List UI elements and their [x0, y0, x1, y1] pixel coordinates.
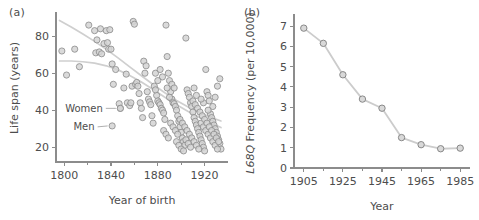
panel-a-x-ticklabel: 1800	[50, 169, 78, 182]
panel-a-data-point	[161, 110, 167, 116]
panel-a-data-point	[138, 105, 144, 111]
panel-a-data-point	[135, 83, 141, 89]
panel-a-data-point	[152, 87, 158, 93]
panel-b-x-ticklabel: 1985	[446, 175, 474, 188]
panel-a-data-point	[143, 63, 149, 69]
panel-a-data-point	[214, 83, 220, 89]
panel-a-data-point	[173, 107, 179, 113]
panel-a-y-ticklabel: 40	[35, 104, 49, 117]
panel-a-data-point	[202, 148, 208, 154]
panel-a-data-point	[217, 76, 223, 82]
panel-b-data-point	[437, 146, 443, 152]
panel-b-x-ticklabel: 1965	[407, 175, 435, 188]
panel-a-data-point	[212, 94, 218, 100]
panel-a-data-point	[180, 148, 186, 154]
panel-a-data-point	[175, 131, 181, 137]
panel-a-svg: 204060801800184018801920WomenMen Life sp…	[0, 0, 232, 220]
panel-b-data-point	[320, 40, 326, 46]
panel-b-data-point	[418, 141, 424, 147]
panel-b-axes	[294, 14, 470, 168]
panel-a-data-point	[205, 92, 211, 98]
panel-a-data-point	[94, 37, 100, 43]
panel-a-data-point	[193, 92, 199, 98]
panel-b-data-point	[457, 145, 463, 151]
panel-a-data-point	[154, 92, 160, 98]
panel-a-data-point	[166, 94, 172, 100]
panel-a-data-point	[144, 89, 150, 95]
panel-a-y-ticklabel: 80	[35, 30, 49, 43]
panel-a-x-ticklabel: 1880	[144, 169, 172, 182]
panel-b-x-ticklabel: 1945	[368, 175, 396, 188]
panel-a-data-point	[109, 61, 115, 67]
panel-b-y-ticklabel: 5	[280, 61, 287, 74]
panel-a-data-point	[123, 71, 129, 77]
panel-a-data-point	[86, 22, 92, 28]
panel-a-data-point	[163, 22, 169, 28]
panel-a-data-point	[196, 146, 202, 152]
panel-a-annotation-men: Men	[73, 121, 94, 132]
panel-a-data-point	[216, 139, 222, 145]
panel-a-x-axis-title: Year of birth	[108, 194, 176, 207]
panel-b-x-ticklabel: 1905	[290, 175, 318, 188]
panel-a-data-point	[121, 85, 127, 91]
panel-a-data-point	[171, 85, 177, 91]
panel-b-label: (b)	[244, 6, 260, 19]
panel-b-line: (b) 0123456719051925194519651985 L68Q Fr…	[232, 0, 479, 220]
panel-a-data-point	[59, 48, 65, 54]
panel-a-data-point	[136, 90, 142, 96]
panel-b-data-point	[340, 72, 346, 78]
panel-b-y-ticklabel: 3	[280, 101, 287, 114]
panel-b-svg: 0123456719051925194519651985 L68Q Freque…	[232, 0, 479, 220]
panel-a-annotation-leader	[98, 126, 108, 127]
panel-a-data-point	[162, 116, 168, 122]
panel-a-data-point	[76, 64, 82, 70]
panel-a-data-point	[63, 72, 69, 78]
panel-b-y-axis-unit-text: Frequency (per 10,000)	[244, 12, 257, 145]
panel-a-data-point	[92, 28, 98, 34]
panel-a-y-ticklabel: 20	[35, 141, 49, 154]
panel-a-data-point	[107, 27, 113, 33]
panel-a-y-ticklabel: 60	[35, 67, 49, 80]
panel-b-data-point	[379, 105, 385, 111]
panel-a-data-point	[72, 46, 78, 52]
panel-a-data-point	[99, 51, 105, 57]
panel-b-y-ticklabel: 1	[280, 142, 287, 155]
panel-b-y-ticklabel: 6	[280, 40, 287, 53]
panel-a-data-point	[150, 120, 156, 126]
panel-a-data-point	[142, 70, 148, 76]
panel-b-y-ticklabel: 7	[280, 20, 287, 33]
panel-a-y-axis-title: Life span (years)	[8, 42, 21, 134]
panel-a-data-point	[110, 81, 116, 87]
panel-a-data-point	[191, 85, 197, 91]
panel-a-data-point	[97, 26, 103, 32]
panel-b-y-axis-gene-name: L68Q	[244, 145, 257, 174]
panel-a-data-point	[206, 98, 212, 104]
panel-a-data-point	[165, 135, 171, 141]
panel-a-annotation-marker	[109, 123, 115, 129]
panel-b-y-ticklabel: 4	[280, 81, 287, 94]
panel-a-x-ticklabel: 1840	[97, 169, 125, 182]
panel-a-data-point	[148, 102, 154, 108]
panel-a-data-point	[157, 66, 163, 72]
panel-a-data-point	[149, 113, 155, 119]
panel-b-series-line	[304, 28, 460, 149]
panel-b-x-ticklabel: 1925	[329, 175, 357, 188]
panel-a-data-point	[108, 46, 114, 52]
panel-a-data-point	[104, 40, 110, 46]
panel-b-y-axis-title: L68Q Frequency (per 10,000)	[244, 12, 257, 173]
panel-b-x-axis-title: Year	[369, 200, 394, 213]
panel-b-data-point	[359, 96, 365, 102]
panel-b-y-ticklabel: 2	[280, 121, 287, 134]
panel-a-data-point	[128, 100, 134, 106]
panel-a-data-point	[137, 100, 143, 106]
panel-a-scatter: (a) 204060801800184018801920WomenMen Lif…	[0, 0, 232, 220]
panel-b-y-ticklabel: 0	[280, 162, 287, 175]
panel-a-data-point	[214, 146, 220, 152]
panel-a-data-point	[139, 115, 145, 121]
panel-a-annotation-women: Women	[65, 103, 103, 114]
panel-a-data-point	[183, 35, 189, 41]
panel-a-data-point	[187, 144, 193, 150]
panel-a-data-point	[203, 66, 209, 72]
panel-a-data-point	[131, 21, 137, 27]
panel-a-label: (a)	[9, 6, 25, 19]
